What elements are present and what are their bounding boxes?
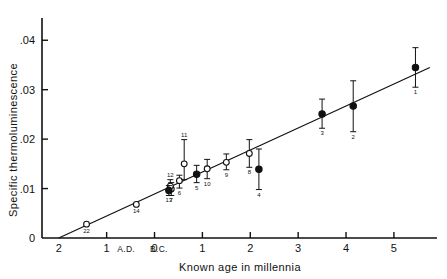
marker-10 [204,166,210,172]
marker-22 [84,221,90,227]
marker-13 [166,187,172,193]
data-point-2: 2 [350,81,356,140]
scatter-plot-canvas: 0.01.02.03.0421012345 123456789101112131… [0,0,447,279]
x-tick-label-0: 2 [56,242,62,254]
point-label-8: 8 [248,169,252,175]
marker-3 [319,111,325,117]
x-tick-label-1: 1 [104,242,110,254]
tick-marks [42,40,394,238]
point-label-13: 13 [166,197,173,203]
data-point-5: 5 [193,165,199,190]
data-point-4: 4 [256,149,262,198]
marker-8 [246,151,252,157]
point-label-6: 6 [178,190,182,196]
data-point-22: 22 [83,221,90,234]
marker-1 [412,64,418,70]
regression-line [59,67,430,238]
y-tick-label-1: .01 [20,183,35,195]
marker-4 [256,166,262,172]
x-tick-label-6: 4 [343,242,349,254]
point-label-4: 4 [257,192,261,198]
marker-5 [193,171,199,177]
y-tick-label-0: 0 [29,232,35,244]
tick-labels: 0.01.02.03.0421012345 [20,34,397,254]
era-label-ad: A.D. [117,244,135,254]
point-label-9: 9 [225,172,229,178]
x-tick-label-3: 1 [199,242,205,254]
point-label-12: 12 [167,172,174,178]
marker-11 [181,161,187,167]
y-tick-label-3: .03 [20,84,35,96]
axes [42,18,437,238]
x-tick-label-5: 3 [295,242,301,254]
point-label-14: 14 [133,208,140,214]
point-label-5: 5 [195,185,199,191]
point-label-22: 22 [83,228,90,234]
data-points: 123456789101112131422 [83,48,418,234]
y-tick-label-4: .04 [20,34,35,46]
marker-9 [223,159,229,165]
point-label-2: 2 [352,134,356,140]
x-axis-title: Known age in millennia [179,261,301,273]
point-label-11: 11 [181,132,188,138]
point-label-3: 3 [320,130,324,136]
marker-6 [177,178,183,184]
data-point-1: 1 [412,48,418,96]
y-tick-label-2: .02 [20,133,35,145]
data-point-14: 14 [133,201,140,214]
point-label-10: 10 [204,181,211,187]
x-tick-label-7: 5 [391,242,397,254]
data-point-10: 10 [204,159,211,186]
point-label-1: 1 [414,89,418,95]
fit-line [59,67,430,238]
data-point-8: 8 [246,140,252,176]
data-point-11: 11 [181,132,188,180]
marker-2 [350,103,356,109]
data-point-9: 9 [223,154,229,178]
data-point-6: 6 [176,175,182,196]
x-tick-label-4: 2 [247,242,253,254]
marker-14 [133,201,139,207]
era-label-bc: B.C. [150,244,168,254]
figure-thermoluminescence-vs-age: 0.01.02.03.0421012345 123456789101112131… [0,0,447,279]
y-axis-title: Specific thermoluminescence [7,63,19,217]
